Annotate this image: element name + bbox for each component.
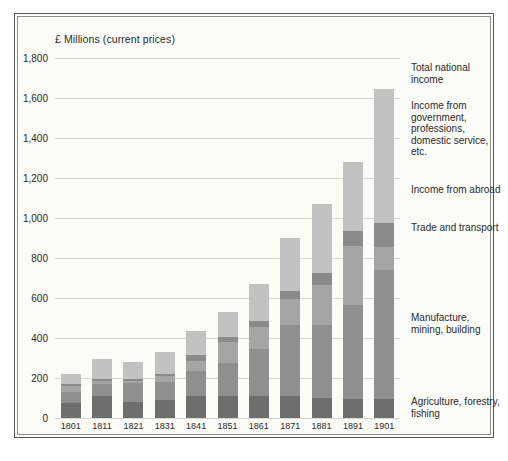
bar-segment: [374, 89, 394, 223]
x-axis-tick-label: 1831: [155, 421, 175, 431]
bar-segment: [312, 285, 332, 325]
bar-segment: [155, 382, 175, 400]
x-axis-tick-label: 1871: [280, 421, 300, 431]
x-axis-tick-label: 1801: [61, 421, 81, 431]
bar-segment: [343, 231, 363, 246]
bar-1821: [123, 362, 143, 418]
bar-1881: [312, 204, 332, 418]
bar-segment: [61, 392, 81, 403]
bar-1801: [61, 374, 81, 418]
legend-item-3: Trade and transport: [411, 222, 503, 234]
bar-1861: [249, 284, 269, 418]
x-axis-tick-label: 1851: [217, 421, 237, 431]
y-axis-tick-label: 1,000: [23, 213, 48, 224]
bar-segment: [123, 362, 143, 379]
bar-segment: [374, 223, 394, 247]
bar-segment: [155, 352, 175, 374]
bar-1841: [186, 331, 206, 418]
bar-segment: [312, 204, 332, 273]
bar-segment: [312, 273, 332, 285]
y-axis-tick-label: 1,400: [23, 133, 48, 144]
bar-segment: [155, 400, 175, 418]
bar-segment: [186, 396, 206, 418]
bar-segment: [218, 396, 238, 418]
bar-segment: [343, 246, 363, 305]
y-axis-tick-label: 1,200: [23, 173, 48, 184]
bar-segment: [374, 399, 394, 418]
gridline: 0: [55, 418, 400, 419]
bar-1871: [280, 238, 300, 418]
bar-segment: [218, 363, 238, 396]
y-axis-tick-label: 200: [31, 373, 48, 384]
bar-segment: [123, 402, 143, 418]
y-axis-tick-label: 0: [42, 413, 48, 424]
bar-segment: [374, 247, 394, 270]
bar-1831: [155, 352, 175, 418]
x-axis-tick-label: 1811: [92, 421, 111, 431]
x-axis-tick-label: 1821: [123, 421, 143, 431]
bar-segment: [186, 331, 206, 355]
bar-segment: [249, 284, 269, 321]
plot-area: 02004006008001,0001,2001,4001,6001,800 1…: [55, 58, 400, 418]
bar-1851: [218, 312, 238, 418]
bar-segment: [280, 299, 300, 325]
legend-item-4: Manufacture, mining, building: [411, 312, 503, 335]
chart-page: £ Millions (current prices) 020040060080…: [0, 0, 508, 461]
bar-segment: [343, 399, 363, 418]
bar-segment: [280, 238, 300, 291]
bar-segment: [312, 325, 332, 398]
bar-segment: [123, 383, 143, 402]
legend-item-2: Income from abroad: [411, 184, 503, 196]
legend-item-1: Income from government, professions, dom…: [411, 100, 503, 158]
gridline: 1,600: [55, 98, 400, 99]
bar-segment: [280, 291, 300, 299]
bar-1901: [374, 89, 394, 418]
bar-1891: [343, 162, 363, 418]
bar-segment: [92, 384, 112, 396]
bar-segment: [343, 162, 363, 231]
bar-1811: [92, 359, 112, 418]
bar-segment: [186, 361, 206, 371]
bar-segment: [218, 342, 238, 363]
y-axis-tick-label: 400: [31, 333, 48, 344]
gridline: 1,800: [55, 58, 400, 59]
x-axis-tick-label: 1841: [186, 421, 206, 431]
bar-segment: [186, 371, 206, 396]
bar-segment: [249, 396, 269, 418]
y-axis-tick-label: 1,600: [23, 93, 48, 104]
legend-item-5: Agriculture, forestry, fishing: [411, 396, 503, 419]
bar-segment: [280, 325, 300, 396]
x-axis-tick-label: 1901: [374, 421, 394, 431]
bar-segment: [374, 270, 394, 399]
y-axis-tick-label: 1,800: [23, 53, 48, 64]
legend-item-0: Total national income: [411, 62, 503, 85]
bar-segment: [92, 359, 112, 379]
y-axis-title: £ Millions (current prices): [55, 33, 175, 45]
x-axis-tick-label: 1891: [343, 421, 363, 431]
x-axis-tick-label: 1861: [249, 421, 269, 431]
y-axis-tick-label: 600: [31, 293, 48, 304]
bar-segment: [249, 349, 269, 396]
bar-segment: [92, 396, 112, 418]
bar-segment: [312, 398, 332, 418]
x-axis-tick-label: 1881: [312, 421, 332, 431]
bar-segment: [280, 396, 300, 418]
y-axis-tick-label: 800: [31, 253, 48, 264]
bar-segment: [61, 403, 81, 418]
bar-segment: [343, 305, 363, 399]
bar-segment: [61, 374, 81, 384]
bar-segment: [218, 312, 238, 337]
gridline: 1,400: [55, 138, 400, 139]
bar-segment: [249, 327, 269, 349]
